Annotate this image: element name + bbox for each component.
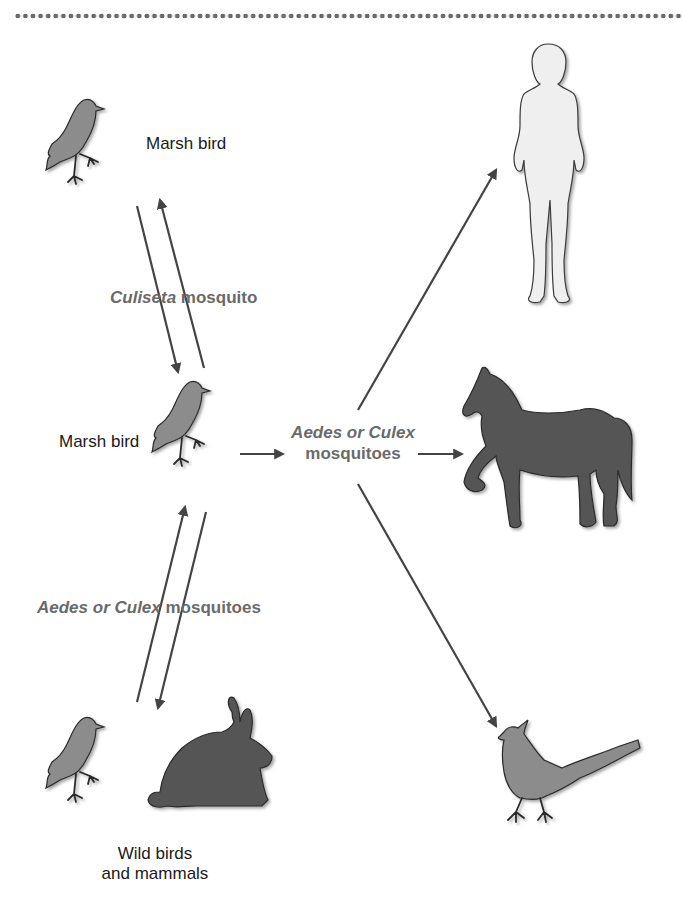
spillover-suffix: mosquitoes: [280, 443, 426, 464]
arrow-to-crested-bird: [358, 484, 496, 726]
marsh-bird-top-icon: [46, 99, 104, 184]
arrow-center-to-top: [160, 200, 204, 368]
marsh-bird-top-label: Marsh bird: [146, 134, 226, 154]
aedes-culex-suffix: mosquitoes: [161, 598, 261, 617]
wild-hosts-line1: Wild birds: [80, 844, 230, 864]
spillover-genus: Aedes or Culex: [291, 423, 415, 442]
wild-bird-icon: [46, 717, 104, 802]
wild-hosts-label: Wild birds and mammals: [80, 844, 230, 884]
marsh-bird-center-icon: [152, 381, 210, 466]
culiseta-vector-label: Culiseta mosquito: [110, 287, 257, 308]
aedes-culex-cycle-label: Aedes or Culex mosquitoes: [37, 597, 261, 618]
arrow-to-human: [358, 170, 496, 410]
culiseta-suffix: mosquito: [176, 288, 257, 307]
wild-hosts-line2: and mammals: [80, 864, 230, 884]
spillover-vector-label: Aedes or Culex mosquitoes: [280, 422, 426, 464]
horse-icon: [463, 367, 632, 527]
aedes-culex-genus: Aedes or Culex: [37, 598, 161, 617]
rabbit-icon: [148, 697, 272, 807]
culiseta-genus: Culiseta: [110, 288, 176, 307]
human-icon: [514, 44, 584, 303]
marsh-bird-center-label: Marsh bird: [59, 432, 139, 452]
crested-bird-icon: [498, 720, 640, 822]
